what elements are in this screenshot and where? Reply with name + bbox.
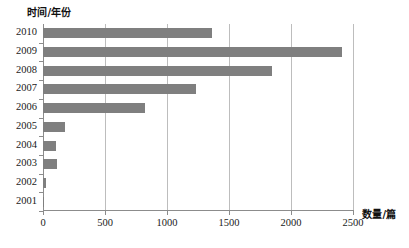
- y-tick-label-2008: 2008: [3, 64, 37, 75]
- bar-row: [43, 192, 353, 211]
- y-axis-title: 时间/年份: [27, 4, 72, 19]
- bar-row: [43, 155, 353, 174]
- bar-2003: [43, 159, 57, 169]
- x-tick-label: 1500: [219, 217, 240, 228]
- bar-2001: [43, 197, 44, 207]
- y-tick-label-2009: 2009: [3, 45, 37, 56]
- y-tick-label-2002: 2002: [3, 176, 37, 187]
- bar-2002: [43, 178, 46, 188]
- y-tick-label-2004: 2004: [3, 139, 37, 150]
- bar-row: [43, 61, 353, 80]
- y-tick-label-2001: 2001: [3, 195, 37, 206]
- x-tick-label: 2500: [343, 217, 364, 228]
- y-tick-label-2003: 2003: [3, 157, 37, 168]
- plot-area: [43, 24, 353, 211]
- bar-row: [43, 174, 353, 193]
- y-tick-label-2007: 2007: [3, 82, 37, 93]
- bar-2010: [43, 28, 212, 38]
- bar-row: [43, 118, 353, 137]
- x-tick-2500: [353, 211, 354, 215]
- bar-row: [43, 43, 353, 62]
- x-tick-label: 2000: [281, 217, 302, 228]
- y-axis-tick-labels: 2010200920082007200620052004200320022001: [0, 24, 37, 211]
- x-tick-0: [43, 211, 44, 215]
- bar-2005: [43, 122, 65, 132]
- bar-2007: [43, 84, 196, 94]
- bar-2004: [43, 141, 56, 151]
- x-tick-label: 1000: [157, 217, 178, 228]
- x-tick-2000: [291, 211, 292, 215]
- y-tick-label-2006: 2006: [3, 101, 37, 112]
- x-tick-500: [105, 211, 106, 215]
- bar-2009: [43, 47, 342, 57]
- x-tick-label: 0: [40, 217, 45, 228]
- y-tick-label-2010: 2010: [3, 26, 37, 37]
- bar-chart: 时间/年份 数量/篇 20102009200820072006200520042…: [0, 0, 409, 248]
- bar-row: [43, 24, 353, 43]
- bar-2008: [43, 66, 272, 76]
- bar-row: [43, 80, 353, 99]
- x-tick-label: 500: [97, 217, 113, 228]
- y-tick-label-2005: 2005: [3, 120, 37, 131]
- gridline-2500: [353, 24, 354, 211]
- x-axis-title: 数量/篇: [362, 206, 396, 221]
- bar-row: [43, 99, 353, 118]
- x-tick-1000: [167, 211, 168, 215]
- x-tick-1500: [229, 211, 230, 215]
- bar-2006: [43, 103, 145, 113]
- bar-row: [43, 136, 353, 155]
